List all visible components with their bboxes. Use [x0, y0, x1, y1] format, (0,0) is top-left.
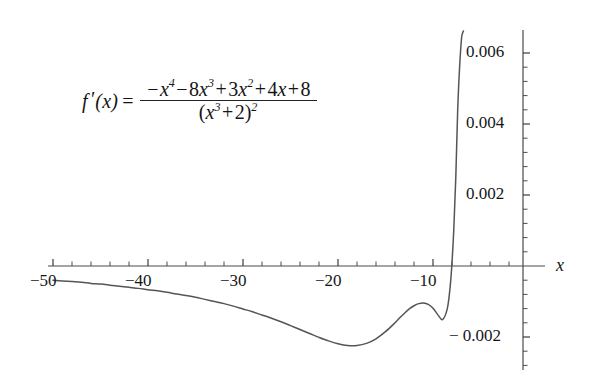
x-tick-label--30: −30: [220, 271, 247, 291]
x-axis-minor-ticks: [72, 262, 509, 267]
derivative-curve: [53, 31, 463, 346]
y-tick-label-0002: 0.002: [466, 184, 504, 204]
y-tick-label--0002: − 0.002: [449, 326, 501, 346]
x-tick-label--10: −10: [410, 271, 437, 291]
x-tick-label--50: −50: [30, 271, 57, 291]
y-axis-minor-ticks: [523, 67, 528, 365]
plot-figure: f′(x)= −x4−8x3+3x2+4x+8 (x3+2)2: [0, 0, 590, 392]
x-tick-label--40: −40: [125, 271, 152, 291]
x-tick-label--20: −20: [315, 271, 342, 291]
y-tick-label-0006: 0.006: [466, 42, 504, 62]
y-tick-label-0004: 0.004: [466, 113, 504, 133]
x-axis-label: x: [556, 255, 564, 276]
